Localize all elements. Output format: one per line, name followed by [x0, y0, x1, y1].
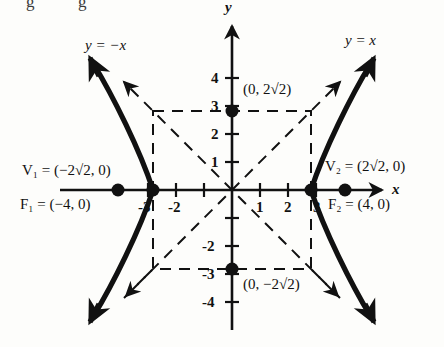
focus-right-label: F₂ = (4, 0)	[328, 197, 390, 212]
co-vertex-bottom-label: (0, −2√2)	[243, 277, 300, 292]
y-tick-label-4: 4	[211, 71, 219, 86]
y-tick-label-neg3: -3	[202, 267, 215, 282]
co-vertex-top-dot	[226, 105, 239, 118]
y-tick-label-2: 2	[211, 127, 219, 142]
asymptote-label-right: y = x	[345, 33, 376, 48]
y-tick-label-1: 1	[211, 155, 219, 170]
y-tick-label-neg2: -2	[202, 239, 215, 254]
x-tick-label-3: 3	[313, 200, 321, 215]
co-vertex-top-label: (0, 2√2)	[243, 82, 291, 97]
vertex-left-dot	[147, 184, 160, 197]
y-tick-label-neg4: -4	[202, 295, 215, 310]
x-tick-label-neg3: -3	[138, 200, 151, 215]
vertex-left-label: V₁ = (−2√2, 0)	[22, 163, 111, 178]
focus-left-dot	[112, 184, 125, 197]
x-tick-label-1: 1	[256, 200, 264, 215]
focus-left-label: F₁ = (−4, 0)	[20, 197, 90, 212]
hyperbola-figure: g g x y -3 -2 1 2 3 1 2 3 4 -2 -3 -4 y =…	[0, 0, 444, 347]
co-vertex-bottom-dot	[226, 263, 239, 276]
scan-artifact-left: g	[26, 0, 35, 10]
vertex-right-dot	[305, 184, 318, 197]
asymptote-label-left: y = −x	[85, 38, 126, 53]
scan-artifact-mid: g	[78, 0, 87, 10]
x-axis-label: x	[392, 182, 400, 197]
y-axis-label: y	[225, 0, 232, 15]
x-tick-label-2: 2	[284, 200, 292, 215]
x-tick-label-neg2: -2	[168, 200, 181, 215]
focus-right-dot	[339, 184, 352, 197]
vertex-right-label: V₂ = (2√2, 0)	[325, 159, 405, 174]
y-tick-label-3: 3	[211, 99, 219, 114]
